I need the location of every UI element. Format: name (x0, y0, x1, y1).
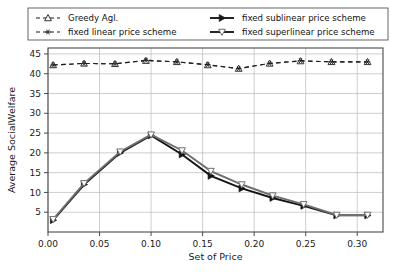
x-tick-label: 0.00 (38, 239, 58, 249)
y-tick-label: 5 (35, 207, 41, 217)
legend-label: fixed superlinear price scheme (242, 27, 375, 37)
y-tick-label: 30 (30, 108, 42, 118)
legend-label: Greedy Agl. (68, 13, 118, 23)
legend-label: fixed linear price scheme (68, 27, 176, 37)
y-tick-label: 40 (30, 69, 42, 79)
x-axis-label: Set of Price (189, 251, 243, 262)
chart-legend: Greedy Agl.fixed sublinear price schemef… (28, 8, 388, 40)
x-tick-label: 0.20 (244, 239, 264, 249)
x-tick-label: 0.10 (141, 239, 161, 249)
y-tick-label: 45 (30, 49, 41, 59)
chart-figure: 0.000.050.100.150.200.250.30 51015202530… (0, 0, 399, 274)
x-tick-label: 0.15 (193, 239, 213, 249)
y-tick-label: 25 (30, 128, 41, 138)
x-tick-label: 0.30 (347, 239, 367, 249)
y-tick-labels: 51015202530354045 (30, 49, 42, 217)
y-tick-label: 15 (30, 168, 41, 178)
y-tick-label: 20 (30, 148, 42, 158)
y-axis-label: Average SocialWelfare (6, 87, 17, 193)
x-tick-label: 0.25 (296, 239, 316, 249)
x-tick-label: 0.05 (90, 239, 110, 249)
legend-label: fixed sublinear price scheme (242, 13, 366, 23)
figure-background (0, 0, 399, 274)
y-tick-label: 35 (30, 89, 41, 99)
y-tick-label: 10 (30, 188, 42, 198)
